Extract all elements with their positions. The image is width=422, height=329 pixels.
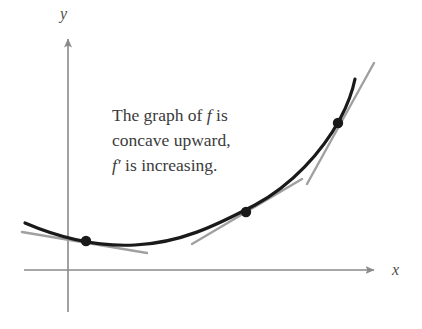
concavity-figure: y x The graph of f is concave upward, f′… bbox=[0, 0, 422, 329]
curve-point-1 bbox=[81, 236, 91, 246]
annotation-line-1: The graph of f is bbox=[112, 103, 292, 128]
curve-point-2 bbox=[241, 207, 251, 217]
curve-point-3 bbox=[333, 118, 343, 128]
annotation-line-1-suffix: is bbox=[212, 105, 228, 125]
annotation-line-3: f′ is increasing. bbox=[112, 153, 292, 178]
annotation-line-2: concave upward, bbox=[112, 128, 292, 153]
y-axis-label: y bbox=[60, 6, 67, 22]
annotation-text: The graph of f is concave upward, f′ is … bbox=[112, 103, 292, 178]
annotation-line-1-prefix: The graph of bbox=[112, 105, 207, 125]
x-axis-label: x bbox=[392, 262, 399, 278]
function-symbol-f-prime: f′ bbox=[112, 155, 121, 175]
annotation-line-3-suffix: is increasing. bbox=[121, 155, 218, 175]
